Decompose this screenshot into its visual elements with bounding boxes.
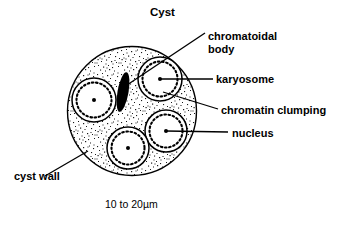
figure-title: Cyst	[150, 6, 175, 18]
scale-label: 10 to 20µm	[105, 198, 158, 210]
label-chromatoidal-body-line2: body	[208, 43, 234, 55]
label-chromatoidal-body-line1: chromatoidal	[208, 30, 277, 42]
nucleus-bottom	[107, 127, 149, 169]
nucleus-left	[72, 78, 116, 122]
cyst-diagram-figure: Cyst chromatoidalbody karyosome chromati…	[0, 0, 355, 228]
karyosome-dot	[92, 98, 96, 102]
karyosome-dot	[126, 146, 130, 150]
label-nucleus: nucleus	[232, 127, 274, 140]
label-karyosome: karyosome	[216, 73, 274, 86]
label-chromatin-clumping: chromatin clumping	[221, 104, 326, 117]
label-chromatoidal-body: chromatoidalbody	[208, 30, 277, 56]
label-cyst-wall: cyst wall	[14, 170, 60, 183]
